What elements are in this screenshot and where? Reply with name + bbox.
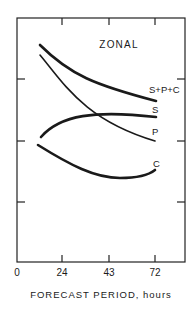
x-tick-label-24: 24	[56, 267, 68, 278]
right-ticks	[177, 79, 185, 202]
x-tick-label-72: 72	[149, 267, 161, 278]
series-label-c: C	[153, 158, 160, 169]
x-axis-label: FORECAST PERIOD, hours	[30, 289, 172, 300]
series-label-p: P	[152, 126, 158, 137]
series-s-p-c-curve	[40, 45, 156, 101]
series-label-s: S	[152, 104, 158, 115]
x-tick-label-43: 43	[103, 267, 115, 278]
series-s-curve	[41, 114, 156, 137]
series-p-curve	[40, 55, 155, 141]
series-label-s-p-c: S+P+C	[149, 84, 180, 95]
top-ticks	[62, 18, 155, 25]
bottom-ticks	[62, 255, 155, 262]
chart: 0 24 43 72 FORECAST PERIOD, hours ZONAL …	[0, 0, 193, 313]
chart-title: ZONAL	[99, 39, 138, 50]
left-ticks	[17, 79, 25, 202]
plot-frame	[17, 18, 185, 262]
series-c-curve	[38, 145, 155, 178]
x-tick-label-0: 0	[14, 267, 20, 278]
